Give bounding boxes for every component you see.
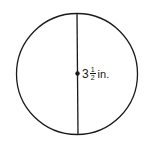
- center-point: [75, 71, 79, 75]
- fraction-denominator: 2: [91, 74, 95, 81]
- measurement-label: 3 1 2 in.: [82, 66, 109, 81]
- measurement-unit: in.: [98, 68, 110, 80]
- circle-diagram: [0, 0, 149, 153]
- fraction-numerator: 1: [90, 66, 96, 74]
- measurement-whole: 3: [82, 67, 89, 81]
- measurement-fraction: 1 2: [90, 66, 96, 81]
